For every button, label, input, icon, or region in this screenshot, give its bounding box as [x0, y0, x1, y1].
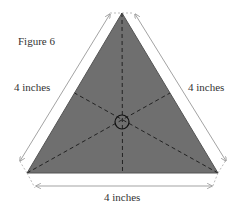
figure-diagram: Figure 6 4 inches 4 inches 4 inches: [0, 0, 236, 213]
left-side-label: 4 inches: [14, 81, 50, 93]
right-side-label: 4 inches: [188, 81, 224, 93]
bottom-side-label: 4 inches: [104, 191, 140, 203]
figure-title: Figure 6: [18, 35, 55, 47]
